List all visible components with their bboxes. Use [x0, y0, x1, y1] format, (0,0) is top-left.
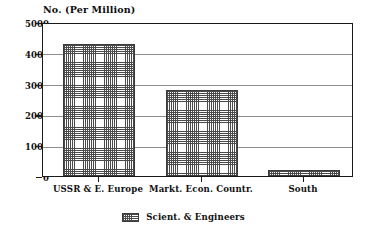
x-tick-label-ussr-e-europe: USSR & E. Europe: [53, 184, 143, 194]
x-tick-label-markt-econ-countr: Markt. Econ. Countr.: [149, 184, 253, 194]
bar-markt-econ-countr: [166, 90, 238, 176]
x-tick-mark-markt-econ-countr: [201, 177, 202, 182]
chart-legend: Scient. & Engineers: [0, 212, 367, 222]
legend-label-scient-engineers: Scient. & Engineers: [146, 212, 245, 222]
x-tick-label-south: South: [288, 184, 317, 194]
x-tick-mark-south: [303, 177, 304, 182]
y-axis-title: No. (Per Million): [43, 4, 135, 15]
x-tick-mark-ussr-e-europe: [98, 177, 99, 182]
legend-swatch-scient-engineers: [122, 213, 139, 222]
y-tick-mark-0: [36, 177, 42, 178]
bar-south: [268, 170, 340, 176]
bar-ussr-e-europe: [63, 44, 135, 176]
plot-area: [42, 23, 353, 177]
bar-chart: No. (Per Million) 5000 4000 3000 2000 10…: [0, 0, 367, 234]
